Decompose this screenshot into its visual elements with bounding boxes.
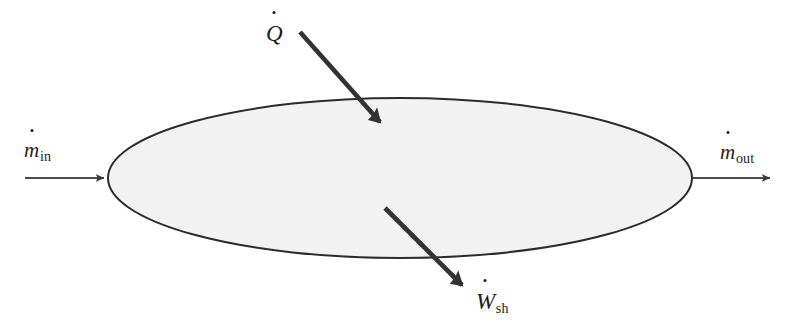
- label-mass-flow-in: min: [24, 140, 51, 164]
- mass-flow-in-symbol: m: [24, 138, 39, 162]
- label-shaft-work: Wsh: [476, 290, 509, 316]
- label-mass-flow-out: mout: [720, 142, 754, 166]
- heat-rate-symbol: Q: [266, 21, 283, 46]
- label-heat-rate: Q: [266, 22, 283, 48]
- mass-flow-in-subscript: in: [39, 149, 51, 164]
- diagram-canvas: min mout Q Wsh: [0, 0, 797, 334]
- mass-flow-out-subscript: out: [735, 151, 754, 166]
- control-volume-diagram: [0, 0, 797, 334]
- control-volume-ellipse: [108, 98, 692, 258]
- shaft-work-subscript: sh: [495, 301, 508, 316]
- overdot-icon: [273, 11, 276, 14]
- shaft-work-symbol: W: [476, 289, 495, 314]
- overdot-icon: [483, 279, 486, 282]
- overdot-icon: [726, 131, 729, 134]
- overdot-icon: [30, 129, 33, 132]
- mass-flow-out-symbol: m: [720, 140, 735, 164]
